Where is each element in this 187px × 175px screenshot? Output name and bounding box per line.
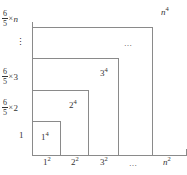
x-axis-label-n: n2 [163, 158, 171, 167]
rect-label-3-exp: 4 [105, 66, 108, 73]
x-axis-label-3-exp: 2 [105, 155, 108, 162]
x-axis-label-3: 32 [100, 158, 108, 167]
x-axis-label-1: 12 [43, 158, 51, 167]
fraction-six-fifths: 6 5 [2, 10, 8, 29]
y-axis-label-2: 6 5 ×2 [2, 99, 18, 118]
rect-label-3: 34 [100, 69, 108, 78]
rect-label-n: n4 [161, 8, 169, 17]
rect-area-ellipsis: … [124, 40, 133, 48]
rect-label-1-exp: 4 [46, 130, 49, 137]
x-axis-label-n-exp: 2 [168, 155, 171, 162]
x-axis-ellipsis: … [129, 160, 138, 168]
x-axis-label-1-exp: 2 [48, 155, 51, 162]
nested-rectangles-figure: 6 5 ×n ⋮ 6 5 ×3 6 5 ×2 1 12 22 32 … n2 1… [0, 0, 187, 175]
fraction-six-fifths: 6 5 [2, 99, 8, 118]
rect-label-n-exp: 4 [166, 5, 169, 12]
x-axis-label-2-exp: 2 [76, 155, 79, 162]
figure-lines [0, 0, 187, 175]
rect-label-2-exp: 4 [74, 98, 77, 105]
rect-n-outline [33, 28, 153, 156]
y-axis-label-n-operand: n [14, 15, 19, 24]
rect-label-1: 14 [41, 133, 49, 142]
x-axis-label-2: 22 [71, 158, 79, 167]
y-axis-label-n: 6 5 ×n [2, 10, 18, 29]
y-axis-vertical-ellipsis: ⋮ [16, 38, 25, 47]
y-axis-label-1: 1 [19, 131, 24, 140]
y-axis-label-3-operand: 3 [14, 73, 19, 82]
y-axis-label-2-operand: 2 [14, 104, 19, 113]
rect-label-2: 24 [69, 101, 77, 110]
fraction-six-fifths: 6 5 [2, 68, 8, 87]
y-axis-label-3: 6 5 ×3 [2, 68, 18, 87]
